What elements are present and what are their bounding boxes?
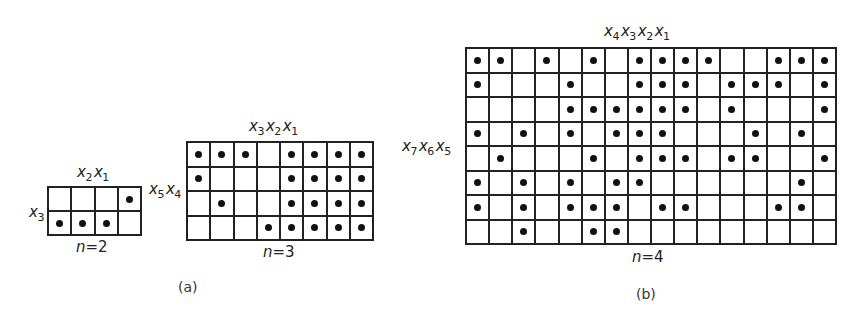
n3-cell-r3-c2 [210,191,233,216]
n4-cell-r6-c5 [559,171,582,196]
n4-column-variables: x4x3x2x1 [604,22,672,43]
dot-marker [682,204,689,211]
n4-cell-r4-c14 [767,122,790,147]
n4-cell-r6-c9 [651,171,674,196]
n4-cell-r1-c13 [744,48,767,73]
variable-x4: x4 [166,180,183,198]
n4-cell-r1-c3 [512,48,535,73]
n3-cell-r3-c8 [350,191,373,216]
n3-cell-r3-c6 [303,191,326,216]
n4-cell-r4-c13 [744,122,767,147]
n3-cell-r1-c4 [257,142,280,167]
n4-cell-r2-c12 [720,73,743,98]
dot-marker [590,106,597,113]
n4-cell-r4-c1 [466,122,489,147]
n2-cell-r2-c2 [71,211,94,235]
variable-x3: x3 [621,22,638,40]
n4-cell-r2-c11 [697,73,720,98]
n3-cell-r2-c2 [210,167,233,192]
variable-x1: x1 [283,117,300,135]
n4-cell-r6-c16 [813,171,836,196]
n4-cell-r6-c12 [720,171,743,196]
dot-marker [311,224,318,231]
dot-marker [311,200,318,207]
n4-cell-r1-c10 [674,48,697,73]
n4-cell-r6-c14 [767,171,790,196]
n3-cell-r2-c5 [280,167,303,192]
n4-cell-r8-c10 [674,220,697,245]
n4-cell-r7-c1 [466,195,489,220]
dot-marker [474,130,481,137]
dot-marker [288,200,295,207]
dot-marker [775,204,782,211]
n4-cell-r4-c12 [720,122,743,147]
dot-marker [728,155,735,162]
dot-marker [311,175,318,182]
n4-cell-r1-c15 [790,48,813,73]
n3-cell-r1-c7 [327,142,350,167]
n4-cell-r5-c15 [790,146,813,171]
n3-cell-r4-c3 [234,216,257,241]
n4-cell-r1-c11 [697,48,720,73]
n3-cell-r3-c1 [187,191,210,216]
n3-cell-r2-c4 [257,167,280,192]
n3-cell-r1-c6 [303,142,326,167]
n4-cell-r6-c2 [489,171,512,196]
n2-cell-r2-c4 [118,211,141,235]
variable-x5: x5 [149,180,166,198]
n4-cell-r3-c8 [628,97,651,122]
dot-marker [613,228,620,235]
n3-cell-r2-c8 [350,167,373,192]
panel-b-caption: (b) [636,286,656,302]
dot-marker [218,151,225,158]
dot-marker [474,179,481,186]
n3-label: n=3 [263,243,295,261]
n3-var: n [263,243,273,261]
dot-marker [775,57,782,64]
n4-cell-r8-c16 [813,220,836,245]
dot-marker [288,224,295,231]
n4-cell-r4-c16 [813,122,836,147]
dot-marker [613,106,620,113]
n4-cell-r5-c6 [582,146,605,171]
n4-cell-r8-c5 [559,220,582,245]
dot-marker [79,220,86,227]
dot-marker [567,179,574,186]
dot-marker [218,200,225,207]
n4-cell-r7-c15 [790,195,813,220]
variable-x2: x2 [638,22,655,40]
n4-cell-r7-c11 [697,195,720,220]
n4-cell-r4-c11 [697,122,720,147]
variable-x6: x6 [419,137,436,155]
n4-cell-r4-c5 [559,122,582,147]
n4-cell-r3-c9 [651,97,674,122]
n2-row-variables: x3 [29,203,46,224]
n3-cell-r1-c2 [210,142,233,167]
n4-cell-r8-c9 [651,220,674,245]
dot-marker [195,151,202,158]
n4-cell-r4-c3 [512,122,535,147]
dot-marker [288,151,295,158]
dot-marker [728,81,735,88]
dot-marker [497,57,504,64]
n3-karnaugh-grid [186,141,374,241]
dot-marker [659,81,666,88]
variable-x4: x4 [604,22,621,40]
dot-marker [752,155,759,162]
n4-cell-r3-c11 [697,97,720,122]
dot-marker [798,130,805,137]
dot-marker [567,81,574,88]
dot-marker [636,130,643,137]
n2-cell-r2-c1 [48,211,71,235]
n4-cell-r8-c6 [582,220,605,245]
n4-cell-r3-c3 [512,97,535,122]
dot-marker [520,130,527,137]
n2-var: n [76,238,86,256]
n3-cell-r4-c5 [280,216,303,241]
n4-cell-r3-c1 [466,97,489,122]
n3-cell-r4-c8 [350,216,373,241]
n4-cell-r5-c14 [767,146,790,171]
n4-cell-r7-c7 [605,195,628,220]
n4-cell-r8-c4 [535,220,558,245]
n4-var: n [632,248,642,266]
